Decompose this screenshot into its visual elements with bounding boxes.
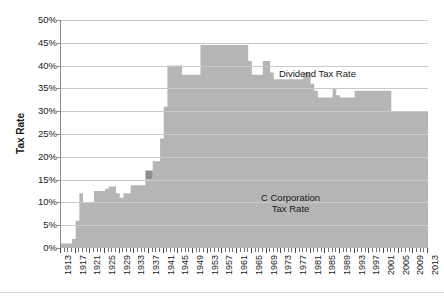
gridline-30% — [61, 111, 428, 112]
x-axis-tick-mark — [354, 248, 355, 253]
x-axis-tick-mark — [357, 248, 358, 252]
y-axis-tick-label: 15% — [38, 175, 57, 185]
x-axis-tick-label: 2005 — [402, 255, 411, 275]
x-axis-tick-mark — [86, 248, 87, 252]
gridline-25% — [61, 134, 428, 135]
y-axis-tick-label: 10% — [38, 198, 57, 208]
x-axis-tick-mark — [412, 248, 413, 253]
x-axis-tick-mark — [310, 248, 311, 253]
x-axis-tick-mark — [137, 248, 138, 252]
x-axis-tick-mark — [332, 248, 333, 252]
x-axis-tick-mark — [427, 248, 428, 253]
y-axis-tick-mark — [57, 20, 61, 21]
x-axis-tick-mark — [335, 248, 336, 252]
x-axis-tick-mark — [394, 248, 395, 252]
footer-divider — [0, 292, 444, 293]
x-axis-tick-mark — [255, 248, 256, 252]
plot-inner — [61, 20, 428, 248]
x-axis-tick-mark — [251, 248, 252, 253]
x-axis-tick-label: 1941 — [167, 255, 176, 275]
x-axis-tick-mark — [321, 248, 322, 252]
x-axis-tick-mark — [266, 248, 267, 253]
x-axis-tick-mark — [295, 248, 296, 253]
x-axis-tick-mark — [306, 248, 307, 252]
x-axis-tick-mark — [376, 248, 377, 252]
x-axis-tick-mark — [225, 248, 226, 252]
x-axis-tick-mark — [416, 248, 417, 252]
y-axis-tick-label: 20% — [38, 152, 57, 162]
y-axis-tick-label: 40% — [38, 61, 57, 71]
x-axis-tick-mark — [174, 248, 175, 252]
x-axis-tick-label: 1985 — [328, 255, 337, 275]
x-axis-tick-label: 1973 — [284, 255, 293, 275]
x-axis-tick-label: 1937 — [152, 255, 161, 275]
x-axis-tick-mark — [269, 248, 270, 252]
x-axis-tick-mark — [229, 248, 230, 252]
x-axis-tick-mark — [387, 248, 388, 252]
x-axis-tick-mark — [97, 248, 98, 252]
gridline-40% — [61, 66, 428, 67]
x-axis-tick-mark — [365, 248, 366, 252]
x-axis-tick-mark — [390, 248, 391, 252]
gridline-10% — [61, 202, 428, 203]
y-axis-tick-mark — [57, 202, 61, 203]
x-axis-tick-mark — [155, 248, 156, 252]
x-axis-tick-mark — [100, 248, 101, 252]
gridline-45% — [61, 43, 428, 44]
x-axis-tick-mark — [71, 248, 72, 252]
x-axis-tick-mark — [291, 248, 292, 252]
x-axis-tick-mark — [133, 248, 134, 253]
y-axis-tick-label: 0% — [43, 243, 57, 253]
c-corporation-label-line2: Tax Rate — [261, 203, 320, 214]
y-axis-tick-mark — [57, 43, 61, 44]
x-axis-tick-mark — [210, 248, 211, 252]
x-axis-tick-mark — [60, 248, 61, 253]
c-corporation-tax-rate-area — [61, 45, 428, 248]
x-axis-tick-mark — [350, 248, 351, 252]
x-axis-tick-mark — [130, 248, 131, 252]
x-axis-tick-mark — [64, 248, 65, 252]
x-axis-tick-mark — [115, 248, 116, 252]
x-axis-tick-mark — [221, 248, 222, 253]
c-corporation-label-line1: C Corporation — [261, 192, 320, 203]
x-axis-tick-mark — [185, 248, 186, 252]
x-axis-tick-label: 2013 — [431, 255, 440, 275]
x-axis-tick-mark — [343, 248, 344, 252]
x-axis-tick-mark — [126, 248, 127, 252]
tax-rate-area-chart: Tax Rate 0%5%10%15%20%25%30%35%40%45%50%… — [0, 0, 444, 298]
x-axis-tick-mark — [199, 248, 200, 252]
x-axis-tick-mark — [409, 248, 410, 252]
y-axis-tick-mark — [57, 157, 61, 158]
x-axis-tick-mark — [203, 248, 204, 252]
gridline-15% — [61, 180, 428, 181]
x-axis-tick-mark — [240, 248, 241, 252]
x-axis-tick-mark — [67, 248, 68, 252]
y-axis-tick-mark — [57, 88, 61, 89]
x-axis-tick-mark — [313, 248, 314, 252]
x-axis-tick-label: 1949 — [196, 255, 205, 275]
x-axis-tick-mark — [89, 248, 90, 253]
gridline-20% — [61, 157, 428, 158]
y-axis-tick-mark — [57, 111, 61, 112]
x-axis-tick-mark — [163, 248, 164, 253]
x-axis-tick-mark — [361, 248, 362, 252]
x-axis-tick-mark — [111, 248, 112, 252]
x-axis-tick-mark — [93, 248, 94, 252]
x-axis-tick-mark — [148, 248, 149, 253]
x-axis-tick-mark — [104, 248, 105, 253]
x-axis-tick-mark — [328, 248, 329, 252]
x-axis-tick-label: 1993 — [358, 255, 367, 275]
x-axis-tick-mark — [262, 248, 263, 252]
x-axis-tick-mark — [78, 248, 79, 252]
x-axis-tick-mark — [372, 248, 373, 252]
gridline-5% — [61, 225, 428, 226]
y-axis-tick-label: 35% — [38, 84, 57, 94]
x-axis-tick-mark — [379, 248, 380, 252]
x-axis-tick-mark — [324, 248, 325, 253]
x-axis-tick-mark — [166, 248, 167, 252]
x-axis-tick-mark — [405, 248, 406, 252]
x-axis-tick-mark — [181, 248, 182, 252]
x-axis-tick-mark — [108, 248, 109, 252]
x-axis-tick-label: 1929 — [123, 255, 132, 275]
x-axis-tick-mark — [273, 248, 274, 252]
